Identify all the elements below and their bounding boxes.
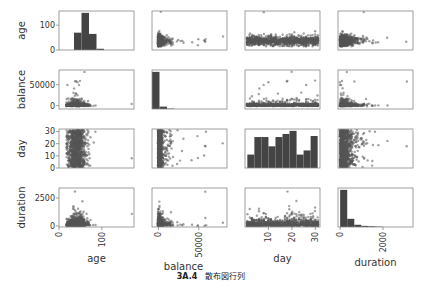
panel-frame xyxy=(152,70,227,109)
x-tick-label: 20 xyxy=(288,232,297,242)
x-tick-label: 2000 xyxy=(379,232,388,252)
panel-duration-vs-balance xyxy=(152,188,227,227)
y-tick-label: 0 xyxy=(50,164,55,173)
y-axis-label-age: age xyxy=(16,21,27,40)
histogram-bar xyxy=(247,155,254,168)
y-tick-label: 100 xyxy=(40,21,55,30)
panel-day-vs-balance xyxy=(152,129,227,169)
y-tick-label: 2500 xyxy=(35,194,55,203)
histogram-bar xyxy=(275,137,282,168)
panel-balance-vs-duration xyxy=(338,70,413,109)
y-axis-label-day: day xyxy=(16,139,27,157)
histogram-bar xyxy=(347,219,354,227)
x-axis-label-duration: duration xyxy=(354,257,396,268)
histogram-bar xyxy=(290,131,297,168)
histogram-bar xyxy=(304,150,311,168)
y-tick-label: 30 xyxy=(45,127,55,136)
histogram-bar xyxy=(340,190,347,227)
panel-day-vs-age xyxy=(59,129,134,169)
y-tick-label: 20 xyxy=(45,140,55,149)
y-axis-label-balance: balance xyxy=(16,70,27,109)
scatter-matrix-chart: 1000500000302010025000agebalancedaydurat… xyxy=(0,0,422,291)
panel-age-vs-day xyxy=(245,11,320,50)
x-tick-label: 0 xyxy=(336,232,345,237)
x-tick-label: 100 xyxy=(98,232,107,247)
panel-age-vs-duration xyxy=(338,11,413,50)
y-tick-label: 10 xyxy=(45,152,55,161)
y-tick-label: 0 xyxy=(50,102,55,111)
x-tick-label: 30 xyxy=(311,232,320,242)
histogram-bar xyxy=(82,13,90,50)
histogram-bar xyxy=(283,134,290,168)
histogram-bar xyxy=(261,137,268,168)
x-tick-label: 50000 xyxy=(195,232,204,257)
panel-age-vs-age xyxy=(59,11,134,50)
y-tick-label: 0 xyxy=(50,46,55,55)
histogram-bar xyxy=(311,136,318,168)
histogram-bar xyxy=(74,33,82,50)
caption-text: 散布図行列 xyxy=(205,272,245,281)
y-axis-label-duration: duration xyxy=(16,186,27,228)
y-tick-label: 0 xyxy=(50,222,55,231)
histogram-bar xyxy=(254,137,261,168)
x-tick-label: 0 xyxy=(154,232,163,237)
panel-balance-vs-day xyxy=(245,70,320,109)
figure-caption: 3A.4散布図行列 xyxy=(0,270,422,281)
panel-day-vs-day xyxy=(245,129,320,168)
y-tick-label: 50000 xyxy=(30,81,55,90)
histogram-bar xyxy=(152,72,160,109)
panel-age-vs-balance xyxy=(152,11,227,50)
x-tick-label: 10 xyxy=(264,232,273,242)
histogram-bar xyxy=(89,34,97,50)
histogram-bar xyxy=(268,146,275,168)
x-axis-label-day: day xyxy=(273,253,291,264)
panel-day-vs-duration xyxy=(338,129,413,169)
panel-duration-vs-day xyxy=(245,188,320,227)
panel-duration-vs-duration xyxy=(338,188,413,227)
x-axis-label-age: age xyxy=(87,253,106,264)
panel-balance-vs-age xyxy=(59,70,134,109)
panel-balance-vs-balance xyxy=(152,70,227,109)
histogram-bar xyxy=(297,155,304,168)
x-tick-label: 0 xyxy=(55,232,64,237)
caption-number: 3A.4 xyxy=(177,272,198,281)
panel-duration-vs-age xyxy=(59,188,134,227)
